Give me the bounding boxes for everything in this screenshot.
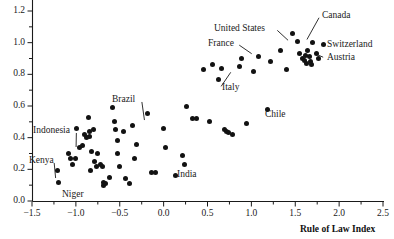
data-point: [239, 56, 244, 61]
x-tick-label: 2.0: [319, 209, 359, 219]
y-tick-label: 0.0: [0, 196, 25, 206]
data-point: [113, 127, 118, 132]
data-point: [290, 31, 295, 36]
x-tick-label: −0.5: [100, 209, 140, 219]
x-tick-label: 0.5: [188, 209, 228, 219]
x-tick-label: 2.5: [363, 209, 394, 219]
data-point: [95, 151, 100, 156]
data-point: [55, 168, 60, 173]
x-tick-label: 1.0: [231, 209, 271, 219]
data-point: [127, 181, 132, 186]
data-point: [115, 151, 120, 156]
data-point: [100, 164, 105, 169]
data-point: [121, 129, 126, 134]
data-point: [201, 67, 206, 72]
point-annotation: Kenya: [29, 156, 54, 166]
point-annotation: Austria: [327, 53, 355, 63]
data-point: [80, 143, 85, 148]
data-point: [295, 39, 300, 44]
data-point: [230, 132, 235, 137]
point-annotation: India: [177, 170, 197, 180]
annotation-leader-line: [142, 102, 145, 120]
data-point: [70, 162, 75, 167]
y-tick-label: 1.0: [0, 38, 25, 48]
annotation-leader-line: [239, 45, 251, 54]
data-point: [145, 111, 150, 116]
point-annotation: Chile: [265, 110, 286, 120]
point-annotation: Italy: [222, 83, 239, 93]
data-point: [74, 126, 79, 131]
x-tick-label: 0.0: [144, 209, 184, 219]
data-point: [309, 62, 314, 67]
data-point: [321, 42, 326, 47]
x-tick-label: −1.0: [56, 209, 96, 219]
data-point: [278, 48, 283, 53]
data-point: [251, 69, 256, 74]
y-tick-label: 0.6: [0, 101, 25, 111]
x-tick-label: −1.5: [12, 209, 52, 219]
data-point: [305, 48, 310, 53]
x-axis-title: Rule of Law Index: [300, 224, 375, 234]
point-annotation: United States: [214, 24, 265, 34]
data-point: [268, 59, 273, 64]
data-point: [237, 64, 242, 69]
point-annotation: Canada: [322, 11, 351, 21]
data-point: [88, 168, 93, 173]
y-tick-label: 0.2: [0, 164, 25, 174]
data-point: [130, 123, 135, 128]
annotation-leader-line: [277, 30, 288, 40]
data-point: [184, 104, 189, 109]
data-point: [284, 67, 289, 72]
data-point: [87, 134, 92, 139]
data-point: [117, 164, 122, 169]
data-point: [112, 119, 117, 124]
point-annotation: Switzerland: [327, 40, 372, 50]
point-annotation: France: [208, 39, 234, 49]
x-tick-label: 1.5: [275, 209, 315, 219]
data-point: [73, 156, 78, 161]
y-tick-label: 0.4: [0, 133, 25, 143]
data-point: [207, 119, 212, 124]
data-point: [132, 156, 137, 161]
data-point: [89, 149, 94, 154]
data-point: [256, 54, 261, 59]
data-point: [134, 142, 139, 147]
data-point: [310, 40, 315, 45]
data-point: [107, 175, 112, 180]
data-point: [182, 162, 187, 167]
annotation-leader-line: [307, 18, 319, 40]
data-point: [316, 56, 321, 61]
data-point: [180, 153, 185, 158]
data-point: [163, 145, 168, 150]
y-tick-label: 0.8: [0, 69, 25, 79]
point-annotation: Brazil: [112, 95, 135, 105]
point-annotation: Indonesia: [33, 126, 70, 136]
data-point: [86, 115, 91, 120]
data-point: [68, 156, 73, 161]
data-point: [194, 116, 199, 121]
data-point: [210, 62, 215, 67]
data-point: [216, 77, 221, 82]
y-tick-label: 1.2: [0, 6, 25, 16]
data-point: [91, 127, 96, 132]
data-point: [115, 138, 120, 143]
data-point: [244, 121, 249, 126]
data-point: [56, 180, 61, 185]
data-point: [161, 126, 166, 131]
point-annotation: Niger: [62, 190, 84, 200]
data-point: [153, 170, 158, 175]
data-point: [103, 181, 108, 186]
data-point: [219, 66, 224, 71]
data-point: [110, 105, 115, 110]
